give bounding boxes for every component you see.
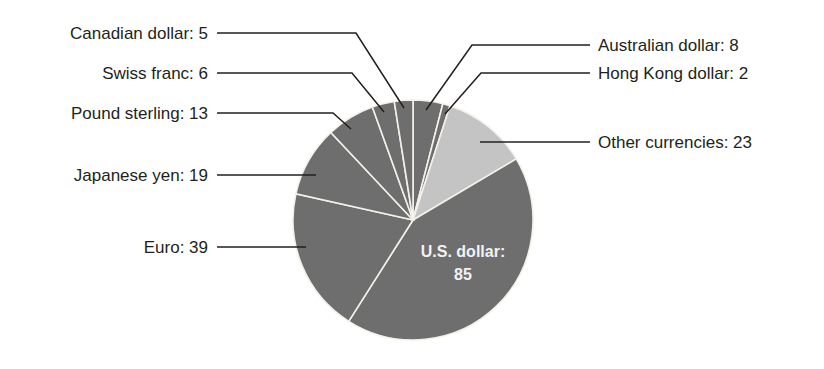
value-u-s-dollar: 85 (454, 266, 472, 283)
currency-pie-chart: Australian dollar: 8Hong Kong dollar: 2O… (0, 0, 824, 369)
label-hong-kong-dollar: Hong Kong dollar: 2 (598, 64, 748, 83)
label-u-s-dollar: U.S. dollar: (421, 243, 505, 260)
label-canadian-dollar: Canadian dollar: 5 (70, 24, 208, 43)
label-other-currencies: Other currencies: 23 (598, 133, 752, 152)
leader-line-hong-kong-dollar (445, 73, 590, 114)
label-euro: Euro: 39 (144, 238, 208, 257)
label-australian-dollar: Australian dollar: 8 (598, 36, 739, 55)
leader-line-pound-sterling (217, 113, 351, 129)
pie-slices (293, 100, 533, 340)
leader-line-canadian-dollar (217, 33, 404, 108)
leader-line-australian-dollar (426, 45, 590, 110)
label-swiss-franc: Swiss franc: 6 (102, 64, 208, 83)
label-pound-sterling: Pound sterling: 13 (71, 104, 208, 123)
label-japanese-yen: Japanese yen: 19 (74, 166, 208, 185)
leader-line-swiss-franc (217, 73, 384, 112)
